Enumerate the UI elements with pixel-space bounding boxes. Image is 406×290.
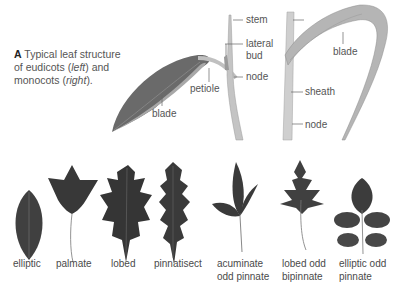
elliptic-leaf-illustration	[16, 190, 43, 260]
label-lateral-bud-line1: lateral	[246, 38, 273, 49]
leaf-label-pinnatisect: pinnatisect	[154, 257, 202, 270]
leaf-label-elliptic-odd-pinnate: elliptic oddpinnate	[339, 257, 386, 283]
leaf-label-acuminate-odd-pinnate: acuminateodd pinnate	[217, 257, 269, 283]
acuminate-odd-pinnate-leaf-illustration	[212, 162, 258, 252]
lobed-leaf-illustration	[100, 165, 152, 262]
leaf-label-palmate: palmate	[56, 257, 92, 270]
lobed-odd-bipinnate-leaf-illustration	[280, 160, 324, 250]
elliptic-odd-pinnate-leaf-illustration	[334, 178, 390, 254]
palmate-leaf-illustration	[48, 165, 98, 262]
pinnatisect-leaf-illustration	[159, 162, 190, 264]
label-stem-eudicot: stem	[246, 14, 268, 25]
monocot-illustration	[283, 5, 388, 140]
leaf-diagram	[0, 0, 406, 290]
label-sheath: sheath	[305, 86, 335, 97]
eudicot-leaf-illustration	[112, 15, 243, 140]
label-node-eudicot: node	[246, 71, 268, 82]
label-petiole: petiole	[190, 83, 219, 94]
label-node-monocot: node	[305, 119, 327, 130]
label-blade-eudicot: blade	[152, 108, 176, 119]
label-blade-monocot: blade	[333, 46, 357, 57]
leaf-label-elliptic: elliptic	[13, 257, 41, 270]
leaf-label-lobed-odd-bipinnate: lobed oddbipinnate	[282, 257, 326, 283]
leaf-label-lobed: lobed	[111, 257, 135, 270]
label-lateral-bud-line2: bud	[246, 50, 263, 61]
